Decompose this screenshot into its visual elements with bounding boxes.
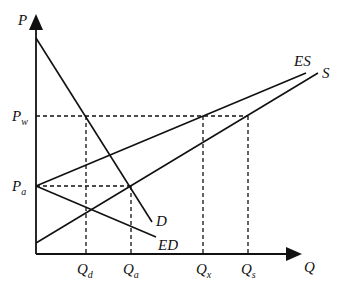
export-supply-curve-label: ES <box>293 53 311 69</box>
trade-diagram: P Q Pw Pa Qd Qa Qx Qs D S ES ED <box>0 0 347 292</box>
quantity-label-qx: Qx <box>196 261 212 280</box>
export-supply-curve <box>36 73 306 186</box>
excess-demand-curve-label: ED <box>157 237 178 253</box>
supply-curve <box>36 73 318 243</box>
supply-curve-label: S <box>322 65 330 81</box>
quantity-label-qs: Qs <box>241 261 256 280</box>
price-label-pw: Pw <box>11 108 28 127</box>
excess-demand-curve <box>36 186 156 237</box>
demand-curve-label: D <box>155 213 167 229</box>
x-axis-label: Q <box>304 259 315 275</box>
y-axis-label: P <box>17 12 27 28</box>
quantity-label-qa: Qa <box>123 261 139 280</box>
x-axis-arrow-icon <box>286 247 302 261</box>
price-label-pa: Pa <box>11 178 26 197</box>
demand-curve <box>36 38 152 222</box>
quantity-label-qd: Qd <box>77 261 94 280</box>
y-axis-arrow-icon <box>29 14 43 30</box>
